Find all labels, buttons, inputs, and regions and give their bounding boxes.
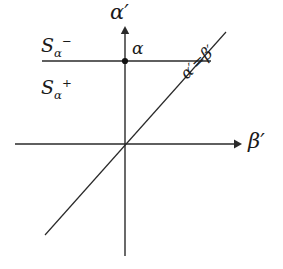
beta-prime-axis-label-prime: ′ <box>260 129 265 153</box>
alpha-prime-axis-label: α′ <box>110 2 129 23</box>
region-s-alpha-plus-subscript: α <box>54 88 62 102</box>
beta-prime-axis-arrowhead <box>234 140 242 149</box>
math-diagram: α′ β′ α Sα− Sα+ α′=β′ <box>0 0 283 269</box>
region-s-alpha-minus-subscript: α <box>54 46 62 60</box>
alpha-prime-axis-label-base: α <box>110 0 124 24</box>
alpha-point-label: α <box>132 40 143 57</box>
region-s-alpha-minus-label: Sα− <box>41 36 72 60</box>
region-s-alpha-minus-superscript: − <box>62 34 72 48</box>
beta-prime-axis-label-base: β <box>248 129 260 153</box>
region-s-alpha-plus-base: S <box>41 76 54 98</box>
alpha-prime-axis-label-prime: ′ <box>124 0 129 24</box>
region-s-alpha-plus-label: Sα+ <box>41 78 72 102</box>
alpha-prime-axis-arrowhead <box>121 26 129 34</box>
region-s-alpha-plus-superscript: + <box>62 76 72 90</box>
region-s-alpha-minus-base: S <box>41 34 54 56</box>
beta-prime-axis-label: β′ <box>248 131 265 152</box>
alpha-point-marker <box>122 58 128 64</box>
